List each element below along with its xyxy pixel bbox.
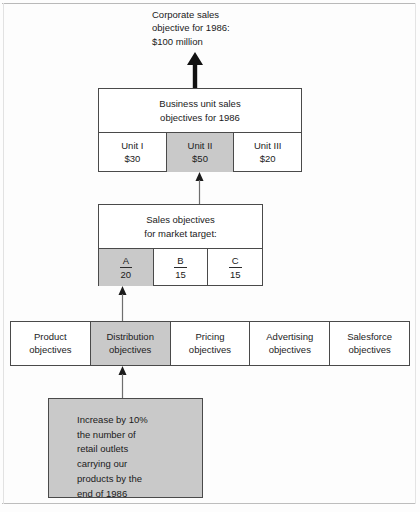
arrow-market-target-to-business-unit-icon (194, 172, 205, 204)
functional-cell-distribution-line-2: objectives (109, 344, 151, 357)
market-target-cell-c-value: 15 (229, 268, 242, 281)
distribution-action-detail-box: Increase by 10% the number of retail out… (48, 398, 203, 498)
corporate-objective-caption: Corporate sales objective for 1986: $100… (152, 8, 322, 48)
functional-cell-distribution[interactable]: Distribution objectives (90, 322, 170, 365)
market-target-cell-a-value: 20 (120, 268, 132, 281)
functional-cell-pricing-line-2: objectives (189, 344, 231, 357)
detail-line-5: products by the (77, 472, 189, 487)
business-unit-cell-1-label: Unit I (121, 140, 143, 153)
functional-cell-pricing-line-1: Pricing (195, 331, 224, 344)
functional-cell-salesforce[interactable]: Salesforce objectives (329, 322, 409, 365)
arrow-detail-to-distribution-icon (117, 366, 128, 398)
detail-line-2: the number of (77, 428, 189, 443)
functional-cell-product-line-2: objectives (29, 344, 71, 357)
functional-cell-salesforce-line-1: Salesforce (347, 331, 392, 344)
business-unit-cell-2-value: $50 (192, 153, 208, 166)
thick-up-arrow-icon (186, 52, 204, 88)
distribution-action-detail-text: Increase by 10% the number of retail out… (77, 413, 189, 501)
corporate-caption-line-3: $100 million (152, 35, 322, 48)
market-target-title-line-2: for market target: (144, 227, 216, 240)
detail-line-3: retail outlets (77, 442, 189, 457)
arrow-functional-to-market-target-icon (117, 286, 128, 321)
business-unit-title-line-2: objectives for 1986 (159, 111, 240, 124)
frame-left-border (3, 3, 4, 504)
business-unit-cell-3[interactable]: Unit III $20 (233, 133, 301, 172)
business-unit-title: Business unit sales objectives for 1986 (99, 89, 301, 133)
business-unit-cell-2[interactable]: Unit II $50 (166, 133, 234, 172)
functional-cell-advertising[interactable]: Advertising objectives (249, 322, 329, 365)
corporate-caption-line-1: Corporate sales (152, 8, 322, 21)
functional-cell-advertising-line-1: Advertising (266, 331, 313, 344)
market-target-cell-b-value: 15 (174, 268, 186, 281)
market-target-cell-a-label: A (120, 255, 132, 268)
functional-cell-distribution-line-1: Distribution (106, 331, 154, 344)
business-unit-cell-3-value: $20 (260, 153, 276, 166)
figure-canvas: Corporate sales objective for 1986: $100… (0, 0, 420, 512)
functional-cell-advertising-line-2: objectives (269, 344, 311, 357)
business-unit-cell-1-value: $30 (124, 153, 140, 166)
functional-objectives-row: Product objectives Distribution objectiv… (10, 321, 410, 366)
frame-right-border (415, 3, 416, 504)
market-target-title: Sales objectives for market target: (99, 205, 262, 249)
market-target-cell-b[interactable]: B 15 (153, 249, 208, 286)
frame-bottom-border (2, 503, 416, 504)
functional-cell-salesforce-line-2: objectives (348, 344, 390, 357)
market-target-cell-c-label: C (229, 255, 242, 268)
business-unit-cell-2-label: Unit II (188, 140, 213, 153)
detail-line-4: carrying our (77, 457, 189, 472)
frame-top-border (2, 3, 416, 4)
business-unit-cell-3-label: Unit III (254, 140, 281, 153)
business-unit-objectives-box: Business unit sales objectives for 1986 … (98, 88, 302, 172)
market-target-cell-row: A 20 B 15 C 15 (99, 249, 262, 286)
business-unit-cell-row: Unit I $30 Unit II $50 Unit III $20 (99, 133, 301, 172)
market-target-cell-c[interactable]: C 15 (207, 249, 262, 286)
business-unit-title-line-1: Business unit sales (159, 97, 240, 110)
business-unit-cell-1[interactable]: Unit I $30 (99, 133, 166, 172)
detail-line-6: end of 1986 (77, 487, 189, 502)
functional-cell-product-line-1: Product (34, 331, 67, 344)
market-target-cell-b-label: B (174, 255, 186, 268)
detail-line-1: Increase by 10% (77, 413, 189, 428)
market-target-title-line-1: Sales objectives (144, 213, 216, 226)
functional-cell-pricing[interactable]: Pricing objectives (170, 322, 250, 365)
market-target-cell-a[interactable]: A 20 (99, 249, 153, 286)
functional-cell-product[interactable]: Product objectives (11, 322, 90, 365)
market-target-objectives-box: Sales objectives for market target: A 20… (98, 204, 263, 286)
corporate-caption-line-2: objective for 1986: (152, 21, 322, 34)
